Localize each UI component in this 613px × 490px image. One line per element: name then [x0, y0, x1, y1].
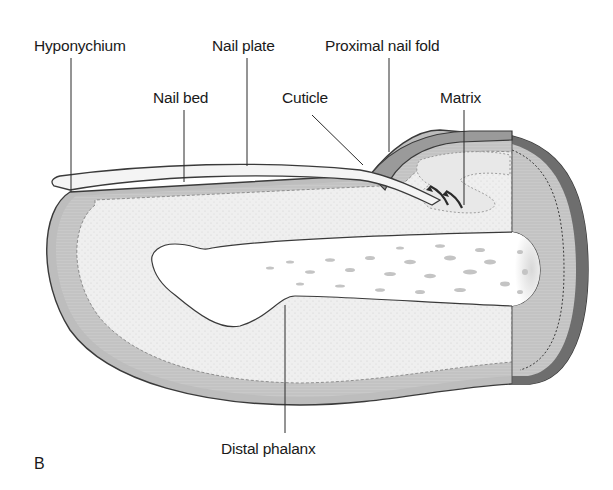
leader-cuticle	[312, 115, 363, 165]
nail-anatomy-diagram	[0, 0, 613, 490]
label-distal-phalanx: Distal phalanx	[221, 441, 316, 457]
label-proximal-nail-fold: Proximal nail fold	[325, 38, 439, 54]
label-nail-plate: Nail plate	[212, 38, 275, 54]
label-cuticle: Cuticle	[282, 90, 328, 106]
label-matrix: Matrix	[440, 90, 481, 106]
label-hyponychium: Hyponychium	[34, 38, 126, 54]
panel-letter: B	[34, 456, 45, 472]
label-nail-bed: Nail bed	[153, 90, 208, 106]
